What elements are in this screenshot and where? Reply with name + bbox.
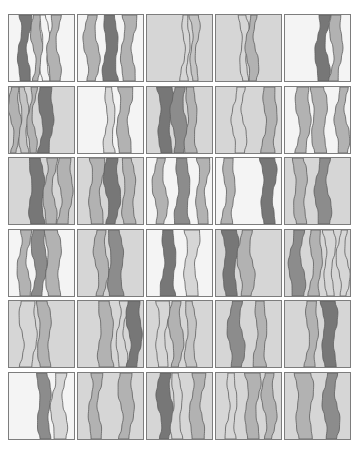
wavy-bands-graphic [9,230,74,296]
wavy-band [93,230,109,296]
wavy-band [221,230,239,296]
pattern-tile-r6-c5[interactable] [284,372,351,440]
wavy-band [189,15,201,81]
wavy-band [37,373,52,439]
wavy-band [237,230,255,296]
wavy-band [118,373,134,439]
wavy-band [120,15,136,81]
wavy-bands-graphic [9,301,74,367]
wavy-band [122,158,136,224]
pattern-tile-r6-c1[interactable] [8,372,75,440]
wavy-band [88,373,103,439]
wavy-band [295,87,311,153]
wavy-band [261,373,277,439]
wavy-band [322,230,336,296]
wavy-band [196,158,210,224]
pattern-tile-r4-c1[interactable] [8,229,75,297]
wavy-band [294,373,314,439]
wavy-bands-graphic [285,230,350,296]
pattern-tile-r2-c2[interactable] [77,86,144,154]
wavy-band [320,301,338,367]
wavy-bands-graphic [9,158,74,224]
wavy-band [29,158,45,224]
pattern-tile-r1-c5[interactable] [284,14,351,82]
wavy-band [189,373,206,439]
wavy-bands-graphic [147,15,212,81]
wavy-band [174,158,190,224]
wavy-band [152,158,168,224]
pattern-tile-r2-c3[interactable] [146,86,213,154]
pattern-tile-r3-c1[interactable] [8,157,75,225]
pattern-tile-r6-c2[interactable] [77,372,144,440]
wavy-band [334,87,350,153]
wavy-bands-graphic [78,373,143,439]
wavy-bands-graphic [9,15,74,81]
wavy-band [103,87,115,153]
pattern-tile-r3-c5[interactable] [284,157,351,225]
pattern-tile-r5-c1[interactable] [8,300,75,368]
pattern-tile-r3-c4[interactable] [215,157,282,225]
wavy-band [37,301,52,367]
wavy-band [308,230,323,296]
pattern-tile-r1-c1[interactable] [8,14,75,82]
pattern-tile-r5-c2[interactable] [77,300,144,368]
wavy-band [184,230,200,296]
wavy-band [227,301,245,367]
pattern-tile-r6-c3[interactable] [146,372,213,440]
pattern-tile-r3-c2[interactable] [77,157,144,225]
wavy-band [47,15,62,81]
wavy-band [102,15,118,81]
wavy-bands-graphic [9,87,74,153]
wavy-bands-graphic [216,373,281,439]
wavy-bands-graphic [216,15,281,81]
wavy-band [225,373,237,439]
wavy-band [31,230,47,296]
pattern-tile-r4-c4[interactable] [215,229,282,297]
wavy-bands-graphic [147,87,212,153]
wavy-bands-graphic [78,87,143,153]
wavy-bands-graphic [147,301,212,367]
wavy-band [97,301,114,367]
pattern-tile-r1-c3[interactable] [146,14,213,82]
wavy-band [160,230,176,296]
wavy-band [27,87,38,153]
pattern-tile-r5-c4[interactable] [215,300,282,368]
wavy-band [304,301,319,367]
wavy-bands-graphic [285,15,350,81]
wavy-band [50,373,67,439]
wavy-band [103,158,120,224]
tile-gallery [0,0,361,451]
pattern-tile-r2-c4[interactable] [215,86,282,154]
wavy-band [89,158,105,224]
wavy-band [322,373,340,439]
wavy-band [314,158,332,224]
pattern-tile-r1-c4[interactable] [215,14,282,82]
wavy-band [245,373,262,439]
wavy-band [83,15,100,81]
wavy-bands-graphic [9,373,74,439]
wavy-band [117,87,133,153]
pattern-tile-r6-c4[interactable] [215,372,282,440]
wavy-band [19,301,37,367]
wavy-band [17,230,32,296]
wavy-band [38,87,55,153]
pattern-tile-r3-c3[interactable] [146,157,213,225]
wavy-bands-graphic [78,15,143,81]
wavy-band [231,87,247,153]
pattern-tile-r5-c5[interactable] [284,300,351,368]
pattern-tile-r4-c3[interactable] [146,229,213,297]
wavy-bands-graphic [147,158,212,224]
pattern-tile-r4-c5[interactable] [284,229,351,297]
pattern-tile-r1-c2[interactable] [77,14,144,82]
pattern-tile-r4-c2[interactable] [77,229,144,297]
wavy-bands-graphic [285,301,350,367]
pattern-tile-r5-c3[interactable] [146,300,213,368]
wavy-band [43,158,58,224]
wavy-band [180,15,190,81]
wavy-bands-graphic [285,373,350,439]
pattern-tile-r2-c1[interactable] [8,86,75,154]
wavy-band [126,301,142,367]
pattern-tile-r2-c5[interactable] [284,86,351,154]
wavy-band [261,87,277,153]
wavy-band [315,15,331,81]
